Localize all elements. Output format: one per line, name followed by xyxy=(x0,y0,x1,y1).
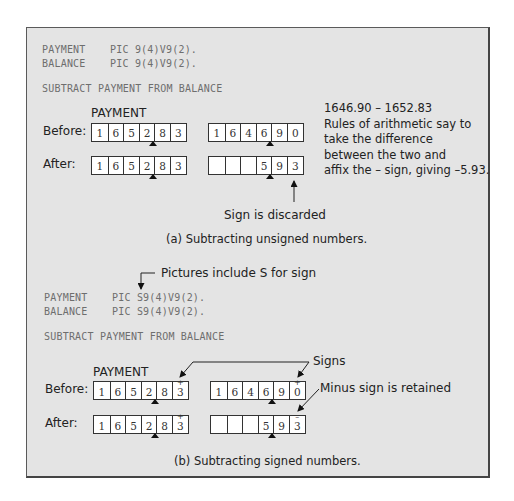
digit-cell: 8 xyxy=(154,124,170,141)
digit-cell: 6 xyxy=(225,124,241,141)
digit-cell: 9 xyxy=(273,382,289,399)
payment-register-before-a: 1 6 5 2 8 3 xyxy=(91,123,187,142)
decimal-pointer-icon xyxy=(149,174,157,179)
signed-digit-cell: +3 xyxy=(172,382,188,399)
digit-cell xyxy=(211,416,227,433)
digit-cell: 3 xyxy=(170,157,186,174)
digit-cell: 9 xyxy=(273,416,289,433)
note-line: affix the – sign, giving –5.93. xyxy=(324,163,489,179)
digit-cell: 4 xyxy=(242,382,258,399)
digit-cell: 1 xyxy=(211,382,227,399)
digit-cell: 1 xyxy=(92,157,108,174)
digit-cell: 5 xyxy=(123,157,139,174)
statement-a: SUBTRACT PAYMENT FROM BALANCE xyxy=(42,83,222,94)
digit-cell: 1 xyxy=(94,416,110,433)
sign-mark: + xyxy=(173,413,188,421)
digit-cell: 6 xyxy=(108,124,124,141)
decl-balance-pic-a: PIC 9(4)V9(2). xyxy=(110,58,197,69)
decimal-pointer-icon xyxy=(149,141,157,146)
digit-cell: 6 xyxy=(110,382,126,399)
balance-register-after-a: 5 9 3 xyxy=(208,156,304,175)
balance-register-after-b: 5 9 –3 xyxy=(210,415,306,434)
sign-discarded-label: Sign is discarded xyxy=(224,208,326,222)
digit-cell: 4 xyxy=(240,124,256,141)
digit-cell: 5 xyxy=(123,124,139,141)
digit-cell xyxy=(240,157,256,174)
digit-cell: 5 xyxy=(258,416,274,433)
digit-cell: 5 xyxy=(125,416,141,433)
pictures-note-label: Pictures include S for sign xyxy=(161,266,316,280)
note-line: between the two and xyxy=(324,148,489,164)
decl-payment-pic-a: PIC 9(4)V9(2). xyxy=(110,44,197,55)
arithmetic-note: 1646.90 – 1652.83 Rules of arithmetic sa… xyxy=(324,101,489,179)
payment-register-after-b: 1 6 5 2 8 +3 xyxy=(93,415,189,434)
digit-cell: 9 xyxy=(271,157,287,174)
decimal-pointer-icon xyxy=(266,174,274,179)
caption-b: (b) Subtracting signed numbers. xyxy=(174,454,361,468)
decl-balance-name-b: BALANCE xyxy=(44,306,88,317)
digit-cell: 3 xyxy=(287,157,303,174)
digit-cell: 8 xyxy=(156,382,172,399)
digit-cell xyxy=(225,157,241,174)
digit-cell: 2 xyxy=(139,157,155,174)
caption-a: (a) Subtracting unsigned numbers. xyxy=(166,232,367,246)
payment-register-before-b: 1 6 5 2 8 +3 xyxy=(93,381,189,400)
sign-mark: – xyxy=(290,413,305,421)
figure-frame xyxy=(26,27,490,478)
digit-cell: 6 xyxy=(227,382,243,399)
minus-retained-label: Minus sign is retained xyxy=(320,381,451,395)
balance-register-before-a: 1 6 4 6 9 0 xyxy=(208,123,304,142)
digit-cell: 1 xyxy=(209,124,225,141)
digit-cell: 8 xyxy=(154,157,170,174)
decl-balance-pic-b: PIC S9(4)V9(2). xyxy=(112,306,205,317)
note-line: take the difference xyxy=(324,132,489,148)
decl-payment-name-b: PAYMENT xyxy=(44,292,88,303)
digit-cell: 2 xyxy=(141,416,157,433)
before-label-b: Before: xyxy=(45,382,88,396)
balance-register-before-b: 1 6 4 6 9 +0 xyxy=(210,381,306,400)
decimal-pointer-icon xyxy=(151,399,159,404)
digit-cell: 6 xyxy=(110,416,126,433)
after-label-b: After: xyxy=(45,416,78,430)
payment-register-after-a: 1 6 5 2 8 3 xyxy=(91,156,187,175)
digit-cell: 6 xyxy=(256,124,272,141)
digit-cell: 2 xyxy=(139,124,155,141)
signs-label: Signs xyxy=(313,354,345,368)
statement-b: SUBTRACT PAYMENT FROM BALANCE xyxy=(44,331,224,342)
register-label-b: PAYMENT xyxy=(93,365,148,379)
digit-cell: 3 xyxy=(170,124,186,141)
digit-cell: 8 xyxy=(156,416,172,433)
digit-cell xyxy=(227,416,243,433)
decimal-pointer-icon xyxy=(151,433,159,438)
digit-cell: 5 xyxy=(256,157,272,174)
digit-cell xyxy=(209,157,225,174)
sign-mark: + xyxy=(173,379,188,387)
before-label-a: Before: xyxy=(43,124,86,138)
decimal-pointer-icon xyxy=(268,433,276,438)
sign-mark: + xyxy=(290,379,305,387)
register-label-a: PAYMENT xyxy=(91,106,146,120)
signed-digit-cell: +0 xyxy=(289,382,305,399)
digit-cell: 5 xyxy=(125,382,141,399)
note-line: 1646.90 – 1652.83 xyxy=(324,101,489,117)
after-label-a: After: xyxy=(43,157,76,171)
decimal-pointer-icon xyxy=(268,399,276,404)
digit-cell: 1 xyxy=(92,124,108,141)
digit-cell: 6 xyxy=(258,382,274,399)
digit-cell: 2 xyxy=(141,382,157,399)
decl-payment-name-a: PAYMENT xyxy=(42,44,86,55)
decl-payment-pic-b: PIC S9(4)V9(2). xyxy=(112,292,205,303)
decl-balance-name-a: BALANCE xyxy=(42,58,86,69)
digit-cell: 0 xyxy=(287,124,303,141)
note-line: Rules of arithmetic say to xyxy=(324,117,489,133)
decimal-pointer-icon xyxy=(266,141,274,146)
digit-cell xyxy=(242,416,258,433)
digit-cell: 6 xyxy=(108,157,124,174)
signed-digit-cell: +3 xyxy=(172,416,188,433)
digit-cell: 9 xyxy=(271,124,287,141)
signed-digit-cell: –3 xyxy=(289,416,305,433)
digit-cell: 1 xyxy=(94,382,110,399)
